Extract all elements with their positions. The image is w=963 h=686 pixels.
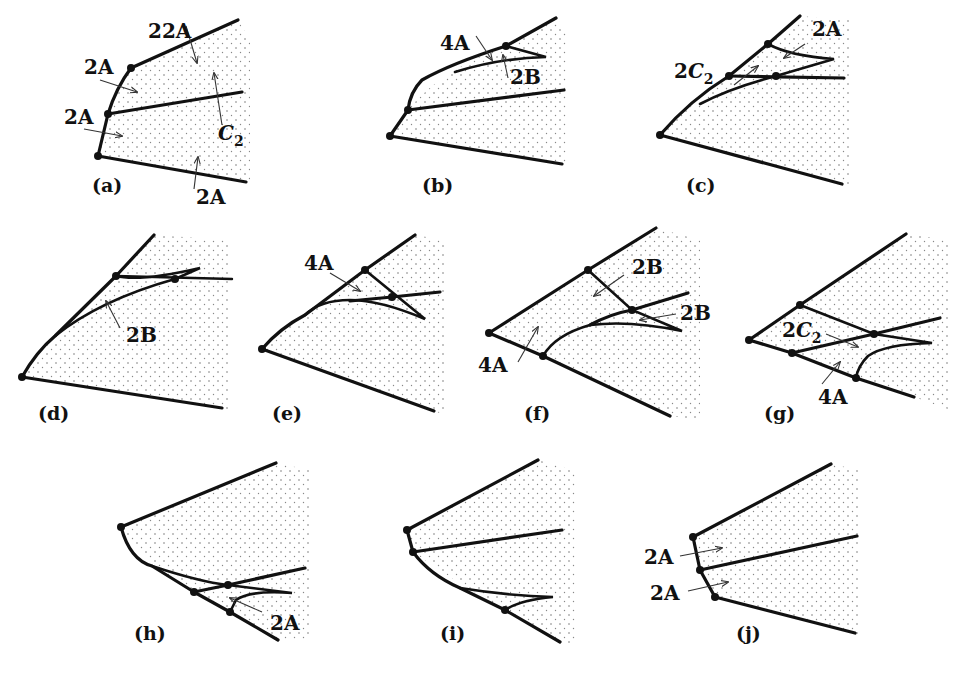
panel-f: 2B 2B 4A (f) [478,228,711,424]
label-2b: 2B [632,255,663,279]
caption-b: (b) [422,174,453,196]
label-2a: 2A [650,581,680,605]
panel-a: 22A 2A 2A C2 2A (a) [64,19,250,209]
bifurcation-diagram: 22A 2A 2A C2 2A (a) 4A 2B (b) 2A [0,0,963,686]
caption-i: (i) [440,622,465,644]
label-2a: 22A [148,19,192,43]
node [409,548,417,556]
node [171,275,179,283]
node [502,42,510,50]
label-2c2: 2C2 [674,59,714,87]
node [772,72,780,80]
label-4a: 4A [440,31,470,55]
node [127,64,135,72]
label-4a: 4A [478,353,508,377]
label-4a: 4A [304,251,334,275]
node [764,40,772,48]
node [18,373,26,381]
panel-i: (i) [403,460,575,645]
label-2a: 2A [64,105,94,129]
label-2a: 2A [644,545,674,569]
node [104,110,112,118]
node [711,593,719,601]
caption-f: (f) [524,402,550,424]
label-2b: 2B [510,65,541,89]
node [689,533,697,541]
label-2a: 2A [270,611,300,635]
panel-b: 4A 2B (b) [386,18,566,196]
node [386,132,394,140]
caption-a: (a) [92,174,122,196]
node [224,581,232,589]
label-2a: 2A [84,55,114,79]
node [628,306,636,314]
node [485,329,493,337]
node [501,606,509,614]
node [94,152,102,160]
node [788,349,796,357]
node [403,526,411,534]
caption-e: (e) [272,402,302,424]
node [796,301,804,309]
shaded-region [407,460,575,645]
node [361,266,369,274]
node [258,345,266,353]
label-2a: 2A [812,17,842,41]
node [112,272,120,280]
node [745,336,753,344]
caption-j: (j) [736,622,761,644]
shaded-region [390,18,566,165]
node [226,608,234,616]
node [117,523,125,531]
node [870,330,878,338]
label-2a: 2A [196,185,226,209]
node [404,106,412,114]
caption-d: (d) [38,402,69,424]
node [725,72,733,80]
panel-g: 2C2 4A (g) [745,234,950,424]
panel-h: 2A (h) [117,463,310,644]
panel-e: 4A (e) [258,235,445,424]
node [190,588,198,596]
caption-h: (h) [134,622,166,644]
label-2b: 2B [126,323,157,347]
caption-g: (g) [764,402,795,424]
node [388,293,396,301]
node [656,131,664,139]
panel-d: 2B (d) [18,235,232,424]
node [539,352,547,360]
node [584,266,592,274]
panel-j: 2A 2A (j) [644,464,860,644]
caption-c: (c) [686,174,716,196]
edge [729,76,844,78]
node [852,374,860,382]
panel-c: 2A 2C2 (c) [656,16,850,196]
label-4a: 4A [818,385,848,409]
node [696,566,704,574]
label-2b: 2B [680,301,711,325]
